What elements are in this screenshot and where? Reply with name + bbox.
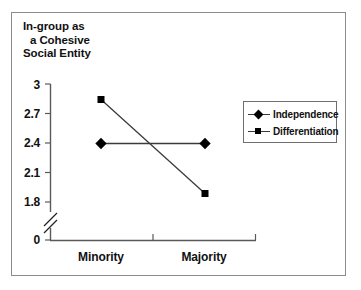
y-tick-label-0: 0 (6, 233, 40, 247)
series-differentiation (98, 96, 209, 197)
series-independence-point-minority (95, 138, 106, 149)
plot-area (0, 0, 361, 290)
y-tick-label-2-7: 2.7 (6, 107, 40, 121)
series-differentiation-point-majority (202, 190, 209, 197)
legend-label-independence: Independence (273, 109, 338, 120)
legend-label-differentiation: Differentiation (273, 126, 339, 137)
series-independence (95, 138, 210, 149)
x-tick-label-minority: Minority (56, 250, 146, 264)
y-tick-label-1-8: 1.8 (6, 195, 40, 209)
square-marker-icon (248, 126, 270, 137)
legend-item-differentiation: Differentiation (248, 123, 339, 139)
y-tick-label-3: 3 (6, 78, 40, 92)
series-independence-point-majority (199, 138, 210, 149)
diamond-marker-icon (248, 109, 270, 120)
x-tick-label-majority: Majority (159, 250, 249, 264)
series-differentiation-point-minority (98, 96, 105, 103)
chart-legend: Independence Differentiation (243, 101, 337, 143)
series-differentiation-line (101, 100, 205, 194)
chart-figure: In-group as a Cohesive Social Entity (0, 0, 361, 290)
legend-item-independence: Independence (248, 106, 338, 122)
y-tick-label-2-1: 2.1 (6, 166, 40, 180)
y-tick-label-2-4: 2.4 (6, 136, 40, 150)
